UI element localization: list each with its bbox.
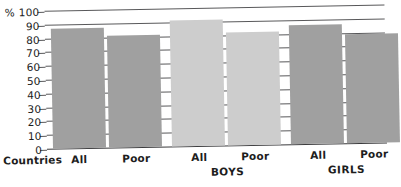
bar-boys-poor [226, 31, 281, 145]
y-tick-label-10: 10 [28, 130, 42, 142]
y-tick-label-40: 40 [27, 89, 41, 101]
y-tick-label-80: 80 [26, 33, 40, 45]
row-caption-countries: Countries [3, 153, 62, 166]
y-tick-label-90: 90 [26, 20, 40, 32]
x-label-countries-all: All [71, 153, 87, 165]
x-label-countries-poor: Poor [122, 152, 150, 165]
bar-boys-all [170, 20, 225, 147]
x-label-boys-all: All [191, 151, 207, 163]
group-label-girls: GIRLS [328, 163, 365, 176]
x-label-girls-poor: Poor [360, 148, 388, 161]
bar-girls-all [289, 25, 344, 145]
y-tick-label-30: 30 [27, 102, 41, 114]
y-tick-label-100: % 100 [5, 6, 40, 19]
bar-countries-poor [107, 35, 162, 148]
x-label-boys-poor: Poor [241, 150, 269, 163]
bar-girls-poor [345, 33, 400, 143]
y-tick-label-70: 70 [26, 47, 40, 59]
y-tick-label-50: 50 [27, 75, 41, 87]
plot-area: % 100 90 80 70 60 50 40 30 [44, 5, 386, 149]
group-label-boys: BOYS [211, 165, 245, 178]
x-label-girls-all: All [310, 149, 326, 161]
bars-layer [44, 5, 386, 149]
bar-countries-all [51, 28, 106, 149]
y-tick-label-20: 20 [27, 116, 41, 128]
bar-chart-figure: % 100 90 80 70 60 50 40 30 [0, 0, 396, 187]
y-tick-label-60: 60 [26, 61, 40, 73]
